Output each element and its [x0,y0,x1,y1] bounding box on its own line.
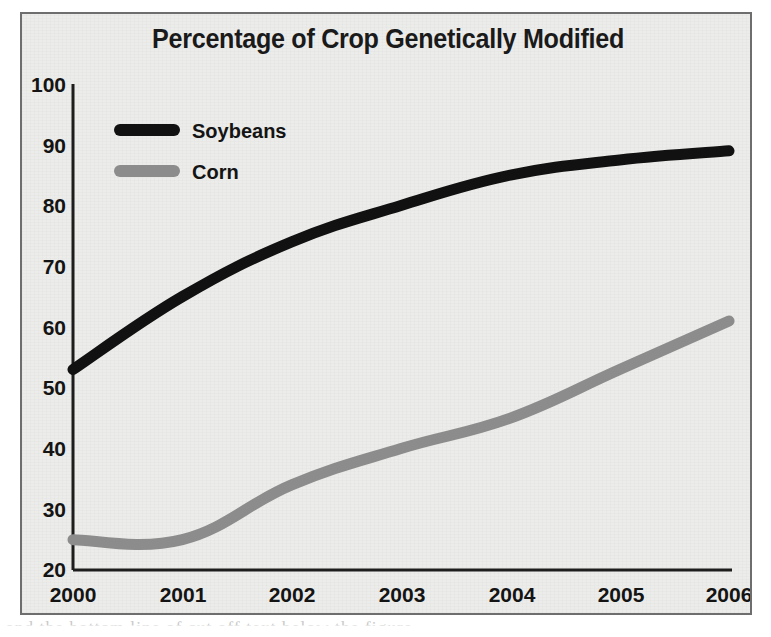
y-tick-label: 90 [43,134,66,157]
y-tick-label: 100 [31,73,66,96]
scanned-page: Percentage of Crop Genetically Modified … [0,0,771,637]
x-tick-label: 2001 [160,583,207,606]
y-tick-label: 60 [43,316,66,339]
chart-figure: Percentage of Crop Genetically Modified … [20,12,752,615]
y-tick-label: 30 [43,498,66,521]
y-tick-label: 80 [43,194,66,217]
x-tick-label: 2003 [379,583,426,606]
series-line-corn [73,321,729,545]
line-chart-plot: 100 90 80 70 60 50 40 30 20 2000 2001 20… [22,14,752,615]
y-tick-label: 70 [43,255,66,278]
page-bottom-text-artifact: and the bottom line of cut off text belo… [0,618,771,637]
x-tick-label: 2004 [489,583,536,606]
legend-label-corn: Corn [192,161,239,183]
x-tick-label: 2000 [50,583,97,606]
legend-label-soybeans: Soybeans [192,120,286,142]
data-series-group [73,151,729,545]
artifact-text: and the bottom line of cut off text belo… [6,618,413,637]
x-tick-label: 2005 [598,583,645,606]
chart-legend: Soybeans Corn [120,120,286,183]
x-axis-tick-labels: 2000 2001 2002 2003 2004 2005 2006 [50,583,752,606]
y-tick-label: 50 [43,376,66,399]
y-tick-label: 20 [43,558,66,581]
y-tick-label: 40 [43,437,66,460]
y-axis-tick-labels: 100 90 80 70 60 50 40 30 20 [31,73,66,581]
series-line-soybeans [73,151,729,370]
x-tick-label: 2002 [269,583,316,606]
x-tick-label: 2006 [706,583,752,606]
